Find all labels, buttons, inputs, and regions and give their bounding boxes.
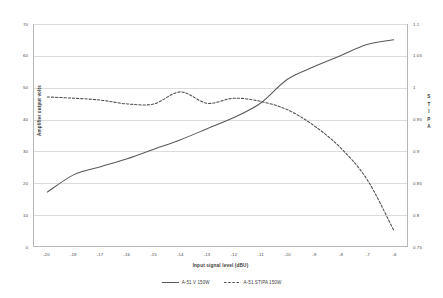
data-series-line [47,40,393,192]
y-axis-left-tick-label: 40 [2,117,28,122]
legend-item[interactable]: A-51 V 150W [162,280,210,285]
x-axis-tick-label: -6 [381,252,408,257]
x-axis-tick-label: -8 [328,252,355,257]
plot-area [33,24,408,247]
y-axis-right-title-char: P [424,116,434,124]
x-axis-tick-label: -17 [87,252,114,257]
y-axis-left-tick-label: 50 [2,85,28,90]
y-axis-right-title-char: I [424,108,434,116]
x-axis-tick-label: -13 [194,252,221,257]
x-axis-title: Input signal level (dBU) [33,263,408,268]
y-axis-left-tick-label: 60 [2,53,28,58]
x-axis-tick-label: -16 [113,252,140,257]
x-axis-tick-label: -7 [354,252,381,257]
legend-label: A-51 STIPA 150W [244,280,282,285]
y-axis-right-tick-label: 1.1 [413,22,437,27]
x-axis-tick-label: -14 [167,252,194,257]
y-axis-left-tick-label: 70 [2,22,28,27]
y-axis-left-tick-label: 30 [2,149,28,154]
y-axis-left-tick-label: 20 [2,181,28,186]
y-axis-right-tick-label: 0.8 [413,213,437,218]
x-axis-tick-label: -11 [247,252,274,257]
legend-item[interactable]: A-51 STIPA 150W [224,280,282,285]
y-axis-left-tick-label: 10 [2,213,28,218]
chart-container: 706050403020100 1.11.0510.950.90.850.80.… [0,0,443,298]
y-axis-right-title-char: T [424,101,434,109]
y-axis-right-tick-label: 0.75 [413,245,437,250]
legend-dashed-line-icon [224,281,241,284]
y-axis-right-tick-label: 0.85 [413,181,437,186]
y-axis-right-title: STIPA [424,93,434,131]
y-axis-right-title-char: S [424,93,434,101]
legend-label: A-51 V 150W [182,280,210,285]
y-axis-right-tick-label: 1 [413,85,437,90]
chart-legend: A-51 V 150WA-51 STIPA 150W [0,280,443,285]
x-axis-tick-label: -10 [274,252,301,257]
x-axis-tick-label: -9 [301,252,328,257]
x-axis-tick-label: -15 [140,252,167,257]
y-axis-right-tick-label: 1.05 [413,53,437,58]
y-axis-right-title-char: A [424,123,434,131]
legend-solid-line-icon [162,281,179,284]
x-axis-tick-label: -12 [221,252,248,257]
x-axis-tick-label: -20 [33,252,60,257]
y-axis-left-title: Amplifier output volts [37,66,42,156]
y-axis-right-tick-label: 0.9 [413,149,437,154]
y-axis-left-tick-label: 0 [2,245,28,250]
data-series-line [47,92,393,230]
data-series-layer [34,24,407,246]
x-axis-tick-label: -18 [60,252,87,257]
